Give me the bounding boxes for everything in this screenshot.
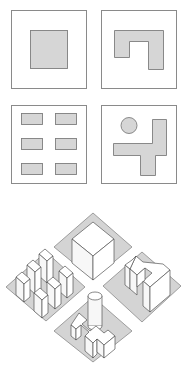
building-footprint [31, 31, 68, 69]
pavilion-footprint [22, 164, 43, 175]
pavilion-footprint [56, 114, 77, 125]
caption-fragment [4, 364, 184, 370]
plan-cross-and-tower [102, 106, 177, 184]
tower-footprint [121, 118, 137, 134]
pavilion-footprint [56, 164, 77, 175]
pavilion-footprint [22, 114, 43, 125]
plan-u-shaped-block [102, 11, 177, 89]
plan-six-pavilions [12, 106, 87, 184]
plan-single-block [12, 11, 87, 89]
pavilion [47, 277, 61, 309]
axo-u-shaped-block [103, 252, 181, 322]
typology-diagram [0, 0, 186, 370]
pavilion-footprint [22, 139, 43, 150]
plan-frame [102, 11, 177, 89]
left-wall [143, 281, 150, 312]
cylindrical-tower [88, 292, 102, 330]
pavilion-footprint [56, 139, 77, 150]
